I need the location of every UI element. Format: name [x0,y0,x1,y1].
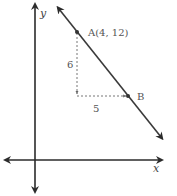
point-b-label: B [137,91,144,102]
coordinate-diagram: y x A(4, 12) B 6 5 [0,0,177,196]
point-a [75,30,79,34]
point-a-label: A(4, 12) [87,27,129,38]
run-label: 5 [93,103,99,114]
x-axis-label: x [153,162,160,175]
y-axis-label: y [39,7,47,20]
point-b [126,94,130,98]
rise-label: 6 [67,59,73,70]
